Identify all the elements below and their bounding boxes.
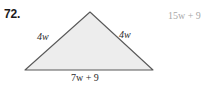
triangle-base-label: 7w + 9 [71,73,99,83]
triangle-side-right-label: 4w [119,30,131,40]
side-left-expression: 4w [37,31,49,42]
side-right-expression: 4w [119,29,131,40]
base-expression: 7w + 9 [71,72,99,83]
answer-expression-label: 15w + 9 [168,11,201,21]
exercise-figure-page: 72. 4w 4w 7w + 9 15w + 9 [0,0,218,89]
triangle-side-left-label: 4w [37,32,49,42]
